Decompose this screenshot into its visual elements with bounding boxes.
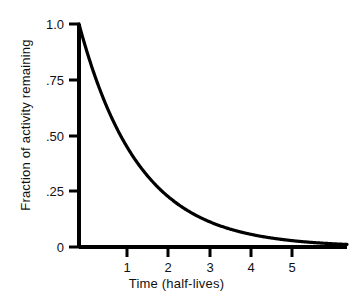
y-tick-label-025: .25	[36, 185, 64, 198]
y-tick-label-1: 1.0	[36, 18, 64, 31]
x-tick-label-5: 5	[288, 261, 295, 274]
x-tick-label-3: 3	[206, 261, 213, 274]
x-axis-title: Time (half-lives)	[0, 276, 353, 291]
y-tick-label-075: .75	[36, 74, 64, 87]
y-axis-title-wrapper: Fraction of activity remaining	[14, 0, 36, 250]
x-tick-label-4: 4	[247, 261, 254, 274]
x-tick-label-2: 2	[164, 261, 171, 274]
y-tick-label-0: 0	[36, 241, 64, 254]
y-tick-label-050: .50	[36, 130, 64, 143]
y-axis-title: Fraction of activity remaining	[18, 39, 33, 210]
plot-area	[0, 0, 353, 308]
radioactive-decay-chart: 1.0 .75 .50 .25 0 1 2 3 4 5 Time (half-l…	[0, 0, 353, 308]
x-tick-label-1: 1	[123, 261, 130, 274]
decay-curve	[79, 24, 347, 244]
